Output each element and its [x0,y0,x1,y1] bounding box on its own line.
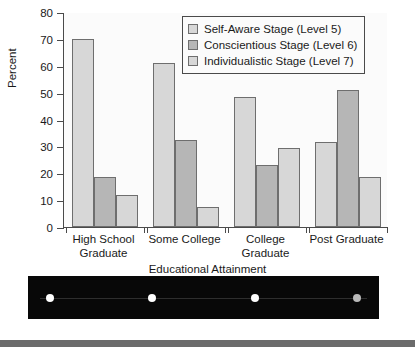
y-axis-tick: 20 [57,174,64,175]
y-axis-tick-label: 10 [40,194,53,209]
strip-dot [353,294,361,302]
x-axis-label: Educational Attainment [0,263,415,275]
strip-dot [148,294,156,302]
legend-item: Conscientious Stage (Level 6) [188,37,357,53]
y-axis-tick: 50 [57,94,64,95]
x-axis-category-label: High School Graduate [63,233,144,260]
y-axis-tick: 30 [57,147,64,148]
bar [315,142,337,227]
y-axis-tick: 10 [57,201,64,202]
legend-item-label: Conscientious Stage (Level 6) [204,39,357,52]
bar [359,177,381,227]
y-axis-tick-label: 80 [40,6,53,21]
y-axis-tick-label: 0 [47,221,53,236]
bar [234,97,256,227]
bar-chart-figure: Percent 01020304050607080 High School Gr… [0,0,415,347]
bar [175,140,197,227]
chart-legend: Self-Aware Stage (Level 5) Conscientious… [182,16,365,74]
legend-item: Individualistic Stage (Level 7) [188,53,357,69]
legend-swatch-icon [188,40,198,50]
y-axis-tick-label: 20 [40,167,53,182]
y-axis-tick-label: 60 [40,60,53,75]
legend-item: Self-Aware Stage (Level 5) [188,21,357,37]
y-axis-tick-label: 30 [40,140,53,155]
x-axis-category-label: College Graduate [225,233,306,260]
legend-item-label: Self-Aware Stage (Level 5) [204,23,341,36]
bottom-gray-band [0,340,415,347]
y-axis-tick: 40 [57,121,64,122]
strip-dot [46,294,54,302]
y-axis-tick-label: 50 [40,87,53,102]
bar [337,90,359,227]
legend-swatch-icon [188,24,198,34]
bar-group [72,13,138,227]
y-axis-label: Percent [6,48,18,88]
bar [278,148,300,227]
y-axis-tick-label: 70 [40,33,53,48]
x-axis-category-label: Post Graduate [306,233,387,247]
y-axis-tick: 80 [57,13,64,14]
strip-dot [251,294,259,302]
bar [116,195,138,227]
bar [72,39,94,227]
bar [153,63,175,227]
y-axis-tick: 0 [57,228,64,229]
bar [256,165,278,227]
footer-black-strip [28,276,379,319]
x-axis-category-label: Some College [144,233,225,247]
strip-center-line [40,298,367,299]
y-axis-tick: 70 [57,40,64,41]
legend-swatch-icon [188,56,198,66]
bar [94,177,116,227]
y-axis-tick: 60 [57,67,64,68]
bar [197,207,219,227]
legend-item-label: Individualistic Stage (Level 7) [204,55,354,68]
y-axis-tick-label: 40 [40,114,53,129]
